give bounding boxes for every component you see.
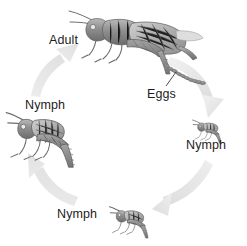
grasshopper-illustrations-group	[0, 0, 247, 246]
label-adult: Adult	[49, 34, 78, 47]
grasshopper-nymph-left	[6, 113, 75, 168]
label-nymph-left: Nymph	[25, 99, 65, 112]
label-nymph-right: Nymph	[186, 139, 226, 152]
adult-hindwing	[176, 31, 203, 41]
label-nymph-bottom: Nymph	[57, 208, 97, 221]
grasshopper-adult	[69, 11, 206, 86]
grasshopper-nymph-bottom	[109, 207, 148, 238]
adult-abdomen-tip	[178, 46, 197, 60]
label-eggs: Eggs	[147, 88, 176, 101]
adult-eye	[90, 24, 95, 29]
life-cycle-diagram: Adult Eggs Nymph Nymph Nymph	[0, 0, 247, 246]
